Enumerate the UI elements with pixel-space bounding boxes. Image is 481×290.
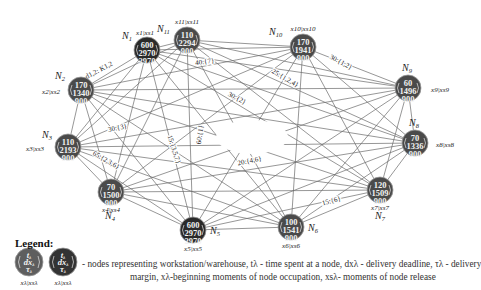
svg-text:xλ|xsλ: xλ|xsλ [20,279,38,287]
center-empty-region [216,120,288,154]
node-margin-value: 900 [409,149,422,159]
edge-label: 15:{6} [321,195,342,208]
edge-N7-N10 [303,47,380,190]
node-margin-value: 900 [62,153,75,163]
node-n7: 1201509900N7x7|xs7 [367,177,393,222]
edge-N4-N7 [111,190,380,192]
node-name-label: N1 [121,30,132,42]
node-n1: 60029702970N1x1|xs1 [121,29,160,66]
edge-N1-N7 [147,50,380,190]
edge-N9-N10 [303,47,408,88]
edge-label: 30:{3} [107,122,127,134]
node-occupation-label: x9|xs9 [430,86,449,94]
edge-label: 40:{7} [195,57,215,68]
node-occupation-label: x3|xs3 [25,145,44,153]
node-occupation-label: x11|xs11 [174,18,199,26]
node-margin-value: 900 [402,94,415,104]
legend-title: Legend: [15,237,54,249]
edge-N2-N9 [81,88,408,90]
node-n11: 1102294900N11x11|xs11 [156,18,200,56]
node-occupation-label: x10|xs10 [290,25,316,33]
node-occupation-label: x6|xs6 [281,242,300,250]
node-n5: 60029702970N5x5|xs5 [180,217,221,253]
edge-label: d1,2: K1,2 [84,59,114,80]
node-name-label: N9 [401,62,413,74]
legend-node-highlight: tλdxλτλxλ|xsλ [49,248,77,287]
edge-N5-N6 [193,227,291,230]
node-occupation-label: x8|xs8 [435,141,454,149]
edge-label: 60:{1} [195,125,206,145]
node-occupation-label: x4|xs4 [101,206,120,214]
node-margin-value: 900 [297,53,310,63]
edge-N6-N10 [291,47,303,227]
node-n3: 1102193900N3x3|xs3 [25,129,81,163]
node-n6: 1001541900N6x6|xs6 [278,214,319,250]
legend-node-regular: tλdxλτλxλ|xsλ [15,248,43,287]
edge-label: 65:{2,3,6} [91,149,121,171]
edge-label: 15:{3,5,7} [166,134,183,165]
node-n4: 701500900N4x4|xs4 [98,179,124,222]
edge-label: 25:{1,2,4} [270,67,300,89]
node-name-label: N8 [408,117,420,129]
edge-label: 20:{4,6} [237,155,263,168]
node-occupation-label: x1|xs1 [135,29,154,37]
node-name-label: N6 [307,222,319,234]
node-occupation-label: x7|xs7 [370,204,389,212]
node-n8: 701336900N8x8|xs8 [402,117,454,159]
edge-N4-N5 [111,192,193,230]
legend-description-line-1: - nodes representing workstation/warehou… [82,259,481,269]
node-margin-value: 2970 [139,56,156,66]
node-occupation-label: x2|xs2 [41,88,60,96]
node-name-label: N5 [209,225,221,237]
node-n9: 601496900N9x9|xs9 [395,62,449,104]
node-name-label: N11 [156,23,170,35]
edge-N6-N8 [291,143,415,227]
node-name-label: N2 [54,70,66,82]
node-margin-value: 900 [181,46,194,56]
legend-symbols: tλdxλτλxλ|xsλtλdxλτλxλ|xsλ [15,248,77,287]
legend-description-line-2: margin, xλ-beginning moments of node occ… [130,272,436,282]
node-name-label: N3 [41,129,53,141]
node-occupation-label: x5|xs5 [183,245,202,253]
edge-label: 30:{1,2} [328,53,353,72]
svg-text:xλ|xsλ: xλ|xsλ [54,279,72,287]
node-name-label: N10 [268,26,283,38]
node-margin-value: 900 [75,96,88,106]
node-n10: 1701941900N10x10|xs10 [268,25,316,63]
